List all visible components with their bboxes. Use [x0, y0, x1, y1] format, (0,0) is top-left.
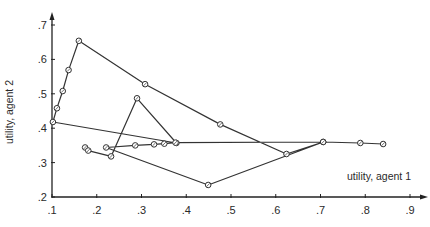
x-tick-label: .8 [361, 204, 370, 216]
x-axis-arrow-icon [420, 195, 428, 200]
utility-chart: .1.2.3.4.5.6.7.8.9 .2.3.4.5.6.7 utility,… [0, 0, 430, 227]
y-tick-label: .4 [38, 122, 47, 134]
y-tick-label: .6 [38, 53, 47, 65]
series-line [53, 41, 383, 185]
x-tick-label: .1 [47, 204, 56, 216]
x-tick-label: .2 [92, 204, 101, 216]
x-tick-label: .5 [226, 204, 235, 216]
x-tick-label: .3 [137, 204, 146, 216]
y-tick-label: .2 [38, 191, 47, 203]
y-tick-label: .7 [38, 19, 47, 31]
x-tick-label: .7 [316, 204, 325, 216]
y-tick-label: .5 [38, 88, 47, 100]
x-tick-label: .4 [182, 204, 191, 216]
x-tick-label: .9 [405, 204, 414, 216]
y-axis-arrow-icon [50, 12, 55, 20]
y-axis-title: utility, agent 2 [3, 80, 15, 144]
y-tick-label: .3 [38, 157, 47, 169]
data-series [50, 38, 386, 188]
x-axis-title: utility, agent 1 [347, 170, 411, 182]
x-tick-label: .6 [271, 204, 280, 216]
